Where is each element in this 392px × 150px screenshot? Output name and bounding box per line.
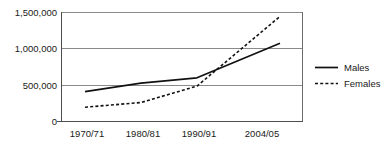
chart-canvas: 1,500,000 1,000,000 500,000 0 1970/71 19… xyxy=(0,0,392,150)
x-axis-tick-labels: 1970/71 1980/81 1990/91 2004/05 xyxy=(70,128,279,139)
legend-label-females: Females xyxy=(344,78,381,89)
x-tick-label-2004-05: 2004/05 xyxy=(245,128,279,139)
chart-legend: Males Females xyxy=(315,62,381,89)
x-tick-label-1980-81: 1980/81 xyxy=(126,128,160,139)
y-tick-label-500000: 500,000 xyxy=(23,80,57,91)
x-tick-label-1990-91: 1990/91 xyxy=(182,128,216,139)
y-tick-label-0: 0 xyxy=(52,116,57,127)
line-chart-figure: 1,500,000 1,000,000 500,000 0 1970/71 19… xyxy=(0,0,392,150)
y-tick-label-1500000: 1,500,000 xyxy=(15,7,57,18)
legend-label-males: Males xyxy=(344,62,370,73)
y-axis-tick-labels: 1,500,000 1,000,000 500,000 0 xyxy=(15,7,57,127)
x-tick-label-1970-71: 1970/71 xyxy=(70,128,104,139)
y-tick-label-1000000: 1,000,000 xyxy=(15,43,57,54)
